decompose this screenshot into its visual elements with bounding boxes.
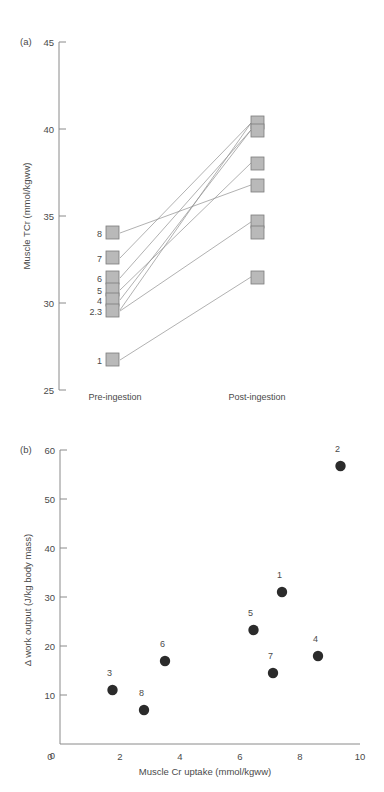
panel-b-x-axis-title: Muscle Cr uptake (mmol/kgww) [139,766,272,777]
panel-a-post-markers [251,116,264,284]
panel-a-y-tick-labels: 45 40 35 30 25 [43,37,54,396]
y-tick-label: 30 [44,592,55,603]
panel-b: (b) 60 50 40 30 20 10 0 0 2 4 6 8 10 [20,444,365,777]
panel-a-category-post: Post-ingestion [228,392,285,402]
y-tick-label: 40 [43,124,54,135]
panel-b-y-axis-title: Δ work output (J/kg body mass) [22,534,33,667]
y-tick-label: 10 [44,690,55,701]
figure-svg: (a) 45 40 35 30 25 Muscle TCr (mmol/kgww… [0,0,384,792]
point-label: 7 [268,651,273,661]
x-tick-label: 0 [47,751,52,762]
panel-b-y-ticks [60,450,67,695]
x-tick-label: 2 [117,751,122,762]
y-tick-label: 30 [43,298,54,309]
y-tick-label: 45 [43,37,54,48]
x-tick-label: 10 [355,751,366,762]
subject-label: 4 [97,296,102,306]
panel-a-category-pre: Pre-ingestion [88,392,141,402]
panel-a-pre-markers [106,226,119,366]
subject-label: 2.3 [89,307,102,317]
point-label: 8 [139,688,144,698]
point-label: 1 [277,570,282,580]
panel-a: (a) 45 40 35 30 25 Muscle TCr (mmol/kgww… [20,36,286,402]
panel-b-x-tick-labels: 0 2 4 6 8 10 [47,751,365,762]
x-tick-label: 8 [297,751,302,762]
y-tick-label: 25 [43,385,54,396]
panel-b-y-tick-labels: 60 50 40 30 20 10 0 [44,445,55,762]
x-tick-label: 4 [177,751,182,762]
panel-a-connectors [120,123,251,360]
x-tick-label: 6 [237,751,242,762]
subject-label: 7 [97,254,102,264]
y-tick-label: 40 [44,543,55,554]
y-tick-label: 35 [43,211,54,222]
y-tick-label: 50 [44,494,55,505]
y-tick-label: 20 [44,641,55,652]
panel-a-y-ticks [59,42,66,390]
panel-b-points: 3 8 6 5 7 1 4 2 [107,444,346,715]
panel-a-subject-labels: 8 7 6 5 4 2.3 1 [89,229,102,366]
point-label: 4 [313,634,318,644]
panel-b-label: (b) [20,444,32,455]
panel-a-y-axis-title: Muscle TCr (mmol/kgww) [21,163,32,270]
y-tick-label: 60 [44,445,55,456]
point-label: 3 [107,668,112,678]
point-label: 5 [248,608,253,618]
subject-label: 5 [97,286,102,296]
point-label: 6 [160,639,165,649]
figure-container: (a) 45 40 35 30 25 Muscle TCr (mmol/kgww… [0,0,384,792]
point-label: 2 [335,444,340,454]
subject-label: 8 [97,229,102,239]
panel-a-label: (a) [20,36,32,47]
subject-label: 1 [97,356,102,366]
subject-label: 6 [97,274,102,284]
